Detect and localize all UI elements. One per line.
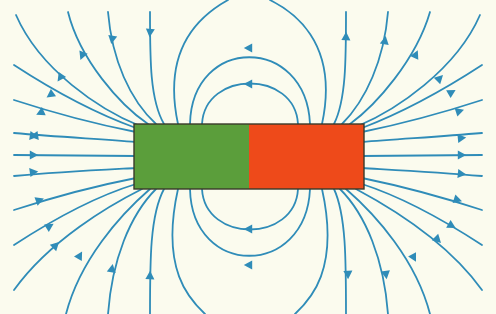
field-lines-canvas bbox=[0, 0, 496, 314]
magnet-field-diagram bbox=[0, 0, 496, 314]
north-pole-red bbox=[249, 124, 364, 189]
south-pole-green bbox=[134, 124, 249, 189]
bar-magnet bbox=[134, 124, 364, 189]
